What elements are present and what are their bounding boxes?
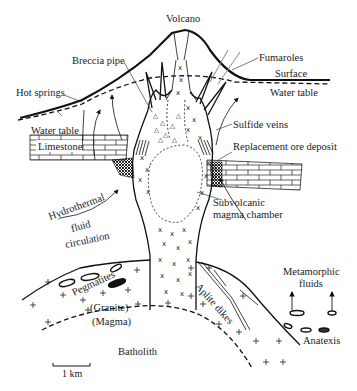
svg-text:x: x	[160, 272, 164, 280]
label-water-table-left: Water table	[31, 125, 79, 136]
label-limestone: Limestone	[38, 141, 83, 152]
breccia-pipe-boundary	[167, 100, 188, 142]
svg-text:△: △	[176, 112, 181, 120]
svg-text:△: △	[158, 136, 163, 144]
svg-text:x: x	[180, 290, 184, 298]
label-granite: (Granite)	[90, 302, 129, 314]
label-subvolcanic: Subvolcanic	[213, 197, 265, 208]
label-replacement-ore-deposit: Replacement ore deposit	[233, 141, 337, 152]
svg-text:x: x	[176, 89, 180, 97]
label-fumaroles: Fumaroles	[259, 52, 303, 63]
svg-text:x: x	[186, 256, 190, 264]
svg-text:x: x	[196, 204, 200, 212]
volcano-vent	[174, 31, 189, 60]
label-batholith: Batholith	[118, 346, 158, 357]
label-fluids: fluids	[299, 278, 323, 289]
label-aplite-dikes: Aplite dikes	[194, 281, 236, 326]
svg-text:x: x	[179, 76, 183, 84]
svg-text:x: x	[186, 104, 190, 112]
svg-text:x: x	[186, 126, 190, 134]
svg-text:x: x	[176, 244, 180, 252]
svg-text:x: x	[204, 172, 208, 180]
svg-text:△: △	[154, 126, 159, 134]
svg-text:△: △	[172, 136, 177, 144]
geology-diagram: △△ △△ △△ △△ xx xx xx xx xx xx xx xx xx x…	[0, 0, 357, 391]
svg-text:x: x	[188, 270, 192, 278]
magma-chamber-boundary	[148, 145, 202, 222]
label-anatexis: Anatexis	[303, 335, 340, 346]
scale-bar-label: 1 km	[62, 368, 83, 379]
svg-text:x: x	[192, 116, 196, 124]
label-volcano: Volcano	[166, 13, 200, 24]
label-sulfide-veins: Sulfide veins	[233, 119, 288, 130]
label-circulation: circulation	[64, 230, 111, 250]
svg-text:x: x	[162, 240, 166, 248]
svg-text:x: x	[158, 256, 162, 264]
label-hot-springs: Hot springs	[16, 87, 65, 98]
label-magma-chamber: magma chamber	[213, 209, 283, 220]
svg-text:△: △	[170, 122, 175, 130]
svg-text:x: x	[140, 154, 144, 162]
svg-text:x: x	[182, 226, 186, 234]
svg-text:x: x	[164, 288, 168, 296]
label-magma: (Magma)	[92, 316, 132, 328]
svg-text:△: △	[153, 112, 158, 120]
label-metamorphic: Metamorphic	[283, 266, 340, 277]
svg-text:x: x	[206, 159, 210, 167]
svg-text:x: x	[146, 188, 150, 196]
label-breccia-pipe: Breccia pipe	[72, 55, 125, 66]
label-surface: Surface	[275, 68, 307, 79]
svg-text:△: △	[163, 131, 168, 139]
replacement-ore-left	[112, 158, 134, 178]
label-water-table-right: Water table	[270, 87, 318, 98]
label-fluid: fluid	[70, 218, 93, 234]
svg-text:x: x	[138, 176, 142, 184]
scale-bar: 1 km	[53, 363, 90, 379]
svg-text:x: x	[178, 64, 182, 72]
svg-text:x: x	[176, 276, 180, 284]
svg-text:△: △	[160, 119, 165, 127]
anatexis-blobs	[284, 311, 336, 333]
svg-text:x: x	[188, 238, 192, 246]
svg-text:x: x	[158, 226, 162, 234]
svg-text:x: x	[172, 260, 176, 268]
metamorphic-fluid-arrows	[292, 292, 332, 310]
svg-text:x: x	[170, 230, 174, 238]
svg-text:x: x	[145, 166, 149, 174]
